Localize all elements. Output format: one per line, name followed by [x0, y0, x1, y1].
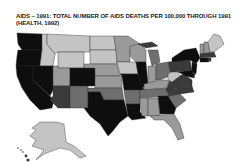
state-arkansas — [124, 90, 140, 104]
state-new-jersey — [192, 62, 197, 74]
state-vermont — [200, 44, 204, 54]
state-alaska — [30, 122, 86, 160]
us-choropleth-map — [0, 0, 240, 166]
state-colorado — [70, 68, 95, 86]
state-new-mexico — [70, 86, 88, 108]
state-montana — [47, 34, 90, 54]
state-north-dakota — [90, 36, 116, 50]
state-kansas — [95, 76, 122, 88]
state-pennsylvania — [168, 60, 192, 72]
state-south-dakota — [90, 50, 117, 64]
state-utah — [53, 66, 70, 86]
state-washington — [17, 33, 42, 50]
state-hawaii — [17, 147, 29, 161]
state-florida — [150, 114, 184, 140]
state-wyoming — [58, 52, 84, 68]
state-iowa — [117, 62, 138, 74]
state-rhode-island — [208, 58, 211, 62]
state-alabama — [148, 98, 160, 116]
state-oregon — [16, 50, 42, 66]
state-connecticut — [200, 58, 208, 62]
state-maine — [208, 34, 224, 52]
